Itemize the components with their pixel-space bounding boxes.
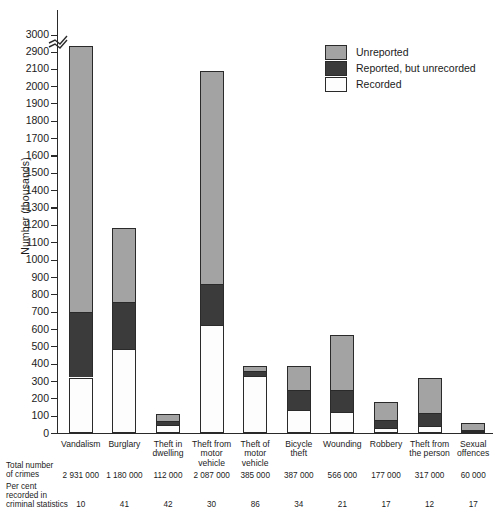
y-tick-400 (51, 364, 57, 365)
segment-unreported (112, 228, 136, 302)
bar-theft-from-the-person[interactable] (418, 378, 442, 433)
y-tick-1600 (51, 155, 57, 156)
y-tick-label-1200: 1200 (5, 219, 49, 230)
legend-label-unreported: Unreported (356, 46, 409, 58)
segment-unreported (69, 46, 93, 311)
total-crimes-theft-from-motor-vehicle: 2 087 000 (190, 471, 234, 480)
legend-item-unrecorded: Reported, but unrecorded (325, 60, 476, 76)
total-crimes-theft-of-motor-vehicle: 385 000 (233, 471, 277, 480)
y-tick-300 (51, 381, 57, 382)
y-tick-1500 (51, 173, 57, 174)
y-tick-1900 (51, 103, 57, 104)
total-crimes-wounding: 566 000 (321, 471, 365, 480)
segment-unrecorded (69, 312, 93, 378)
y-tick-label-1500: 1500 (5, 167, 49, 178)
segment-unreported (374, 402, 398, 420)
x-label-theft-of-motor-vehicle: Theft of motor vehicle (233, 440, 277, 468)
y-tick-label-600: 600 (5, 324, 49, 335)
bar-theft-in-dwelling[interactable] (156, 414, 180, 433)
x-label-burglary: Burglary (103, 440, 147, 449)
x-label-sexual-offences: Sexual offences (451, 440, 495, 459)
segment-recorded (330, 412, 354, 433)
y-tick-label-3000: 3000 (5, 29, 49, 40)
bar-theft-from-motor-vehicle[interactable] (200, 71, 224, 433)
segment-unrecorded (200, 284, 224, 325)
bar-theft-of-motor-vehicle[interactable] (243, 366, 267, 433)
y-tick-1200 (51, 225, 57, 226)
source-note (210, 503, 503, 512)
segment-recorded (69, 378, 93, 434)
x-axis-category-labels: VandalismBurglaryTheft in dwellingTheft … (57, 437, 493, 469)
bar-sexual-offences[interactable] (461, 423, 485, 433)
y-tick-2100 (51, 69, 57, 70)
y-tick-label-2900: 2900 (5, 46, 49, 57)
segment-unreported (330, 335, 354, 390)
total-crimes-theft-from-the-person: 317 000 (408, 471, 452, 480)
x-label-bicycle-theft: Bicycle theft (277, 440, 321, 459)
y-tick-label-300: 300 (5, 376, 49, 387)
x-label-vandalism: Vandalism (59, 440, 103, 449)
y-tick-label-0: 0 (5, 428, 49, 439)
y-tick-label-1600: 1600 (5, 150, 49, 161)
y-tick-1400 (51, 190, 57, 191)
segment-unrecorded (374, 420, 398, 428)
row-label-total-crimes: Total number of crimes (6, 462, 53, 480)
bar-bicycle-theft[interactable] (287, 366, 311, 433)
bar-robbery[interactable] (374, 402, 398, 433)
total-crimes-theft-in-dwelling: 112 000 (146, 471, 190, 480)
y-tick-label-700: 700 (5, 306, 49, 317)
segment-recorded (418, 426, 442, 433)
bar-burglary[interactable] (112, 228, 136, 433)
segment-unrecorded (112, 302, 136, 349)
y-tick-0 (51, 433, 57, 434)
legend-label-unrecorded: Reported, but unrecorded (356, 62, 476, 74)
y-tick-100 (51, 416, 57, 417)
y-tick-label-800: 800 (5, 289, 49, 300)
y-tick-label-1700: 1700 (5, 133, 49, 144)
percent-recorded-vandalism: 10 (59, 500, 103, 509)
legend-item-recorded: Recorded (325, 76, 476, 92)
segment-recorded (156, 425, 180, 433)
y-tick-500 (51, 346, 57, 347)
y-tick-label-400: 400 (5, 358, 49, 369)
y-tick-label-100: 100 (5, 410, 49, 421)
segment-recorded (243, 376, 267, 433)
y-tick-800 (51, 294, 57, 295)
segment-recorded (461, 431, 485, 433)
y-tick-200 (51, 398, 57, 399)
y-tick-label-200: 200 (5, 393, 49, 404)
x-label-theft-from-motor-vehicle: Theft from motor vehicle (190, 440, 234, 468)
y-tick-label-1800: 1800 (5, 115, 49, 126)
y-tick-2000 (51, 86, 57, 87)
legend-swatch-unrecorded (325, 61, 347, 76)
x-label-robbery: Robbery (364, 440, 408, 449)
segment-recorded (200, 325, 224, 433)
y-tick-label-1300: 1300 (5, 202, 49, 213)
bar-wounding[interactable] (330, 335, 354, 433)
segment-unreported (287, 366, 311, 390)
segment-unreported (418, 378, 442, 413)
legend-swatch-unreported (325, 45, 347, 60)
segment-unrecorded (287, 390, 311, 411)
y-tick-1300 (51, 207, 57, 208)
y-tick-1000 (51, 260, 57, 261)
total-crimes-sexual-offences: 60 000 (451, 471, 495, 480)
segment-unrecorded (418, 413, 442, 426)
y-tick-label-900: 900 (5, 272, 49, 283)
y-tick-label-1000: 1000 (5, 254, 49, 265)
bar-vandalism[interactable] (69, 46, 93, 433)
total-crimes-burglary: 1 180 000 (103, 471, 147, 480)
legend-item-unreported: Unreported (325, 44, 476, 60)
y-tick-label-2100: 2100 (5, 63, 49, 74)
y-tick-1100 (51, 242, 57, 243)
y-tick-600 (51, 329, 57, 330)
y-tick-900 (51, 277, 57, 278)
segment-recorded (112, 349, 136, 433)
y-tick-label-1100: 1100 (5, 237, 49, 248)
y-tick-label-1400: 1400 (5, 185, 49, 196)
x-label-theft-from-the-person: Theft from the person (408, 440, 452, 459)
percent-recorded-burglary: 41 (103, 500, 147, 509)
segment-unreported (200, 71, 224, 284)
y-axis-line (57, 10, 58, 434)
y-tick-label-2000: 2000 (5, 81, 49, 92)
